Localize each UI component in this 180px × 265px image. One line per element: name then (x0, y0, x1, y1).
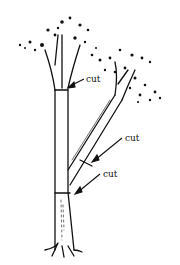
cut-label-top: cut (86, 74, 101, 84)
tree-diagram: cut cut cut (0, 0, 180, 265)
foliage (19, 17, 161, 104)
cut-label-middle: cut (125, 133, 140, 143)
tree-illustration (45, 35, 135, 257)
cut-label-bottom: cut (103, 169, 118, 179)
